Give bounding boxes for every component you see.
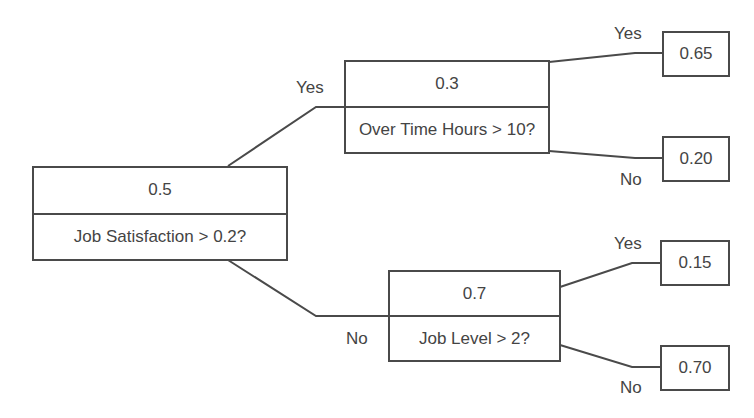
root-node: 0.5 Job Satisfaction > 0.2? — [32, 166, 288, 261]
joblevel-node-value: 0.7 — [390, 272, 559, 315]
overtime-node-question: Over Time Hours > 10? — [346, 106, 548, 152]
decision-tree-diagram: 0.5 Job Satisfaction > 0.2? Yes 0.3 Over… — [0, 0, 754, 418]
leaf-joblevel-yes: 0.15 — [660, 240, 730, 286]
root-node-value: 0.5 — [34, 168, 286, 213]
connector-overtime-yes — [549, 53, 662, 62]
connector-joblevel-no — [560, 345, 660, 367]
joblevel-node: 0.7 Job Level > 2? — [388, 270, 561, 362]
edge-label-overtime-yes: Yes — [614, 24, 642, 44]
edge-label-root-yes: Yes — [296, 78, 324, 98]
overtime-node: 0.3 Over Time Hours > 10? — [344, 60, 550, 154]
joblevel-node-question: Job Level > 2? — [390, 315, 559, 360]
connector-root-yes — [228, 107, 344, 166]
leaf-overtime-yes: 0.65 — [662, 31, 730, 77]
connector-overtime-no — [549, 151, 662, 158]
edge-label-joblevel-yes: Yes — [614, 234, 642, 254]
overtime-node-value: 0.3 — [346, 62, 548, 106]
edge-label-joblevel-no: No — [620, 378, 642, 398]
leaf-overtime-no: 0.20 — [662, 136, 730, 182]
root-node-question: Job Satisfaction > 0.2? — [34, 213, 286, 260]
connector-root-no — [228, 260, 388, 316]
leaf-joblevel-no: 0.70 — [660, 345, 730, 391]
connector-joblevel-yes — [560, 263, 660, 287]
edge-label-overtime-no: No — [620, 170, 642, 190]
edge-label-root-no: No — [346, 329, 368, 349]
